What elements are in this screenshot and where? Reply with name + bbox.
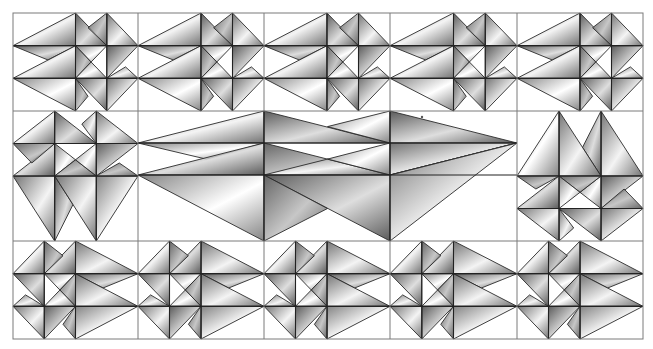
geometric-pattern-canvas	[0, 0, 653, 349]
artifact-layer	[421, 116, 423, 118]
speck	[421, 116, 423, 118]
